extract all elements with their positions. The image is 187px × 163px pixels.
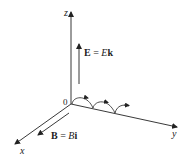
- b-equals: =: [58, 130, 69, 141]
- e-field-label: E = Ek: [84, 48, 113, 58]
- e-unit-vector: k: [107, 47, 113, 58]
- b-unit-vector: i: [74, 130, 77, 141]
- y-axis: [71, 104, 177, 127]
- b-field-label: B = Bi: [51, 131, 77, 141]
- origin-label: 0: [63, 98, 68, 107]
- em-field-cycloid-diagram: z y x 0 E = Ek B = Bi: [0, 0, 187, 163]
- y-axis-label: y: [172, 129, 176, 139]
- x-axis-label: x: [20, 146, 24, 156]
- e-equals: =: [91, 47, 102, 58]
- axes-canvas: [0, 0, 187, 163]
- e-vector-symbol: E: [84, 47, 91, 58]
- z-axis-label: z: [64, 8, 68, 18]
- b-vector-symbol: B: [51, 130, 58, 141]
